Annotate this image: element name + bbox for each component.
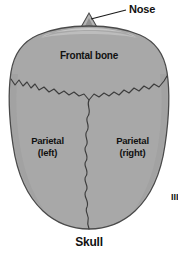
clipped-margin-text: III <box>171 192 178 203</box>
label-parietal-right: Parietal (right) <box>85 136 178 158</box>
label-frontal-bone: Frontal bone <box>0 51 178 62</box>
label-parietal-right-line1: Parietal <box>116 135 149 146</box>
label-parietal-left-line2: (left) <box>0 148 95 158</box>
skull-diagram: Nose Frontal bone Parietal (left) Pariet… <box>0 0 178 257</box>
nose-leader-line <box>91 10 126 19</box>
skull-illustration <box>0 0 178 257</box>
label-nose: Nose <box>129 4 155 16</box>
label-parietal-left: Parietal (left) <box>0 136 95 158</box>
figure-caption: Skull <box>0 236 178 249</box>
label-parietal-right-line2: (right) <box>85 148 178 158</box>
label-parietal-left-line1: Parietal <box>31 135 64 146</box>
